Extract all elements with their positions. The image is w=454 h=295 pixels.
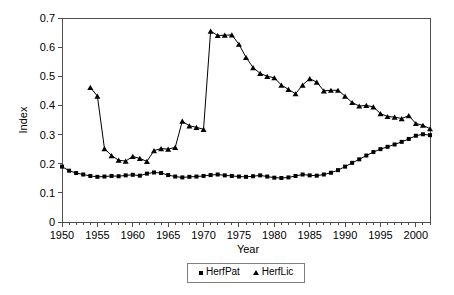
legend-entry-herfpat: HerfPat <box>199 266 240 278</box>
data-point-marker <box>144 159 150 164</box>
x-tick-label: 1985 <box>297 229 321 241</box>
data-point-marker <box>137 156 143 161</box>
x-axis-ticks: 1950195519601965197019751980198519901995… <box>50 222 430 241</box>
chart-legend: HerfPat HerfLic <box>187 263 305 283</box>
data-point-marker <box>216 173 220 177</box>
data-point-marker <box>350 161 354 165</box>
data-point-marker <box>272 176 276 180</box>
triangle-marker-icon <box>253 270 259 275</box>
chart-canvas: 00.10.20.30.40.50.60.7 19501955196019651… <box>0 0 454 295</box>
data-point-marker <box>102 175 106 179</box>
square-marker-icon <box>199 271 203 275</box>
data-point-marker <box>286 175 290 179</box>
data-point-marker <box>60 165 64 169</box>
data-point-marker <box>194 175 198 179</box>
y-tick-label: 0.5 <box>40 70 55 82</box>
data-point-marker <box>202 174 206 178</box>
data-point-marker <box>336 168 340 172</box>
data-point-marker <box>209 173 213 177</box>
data-point-marker <box>427 126 433 131</box>
data-point-marker <box>131 173 135 177</box>
data-point-marker <box>250 65 256 70</box>
data-point-marker <box>314 80 320 85</box>
y-tick-label: 0.2 <box>40 158 55 170</box>
data-point-marker <box>364 154 368 158</box>
x-tick-label: 1955 <box>85 229 109 241</box>
x-axis-title: Year <box>237 243 260 255</box>
data-point-marker <box>308 173 312 177</box>
data-point-marker <box>301 173 305 177</box>
x-tick-label: 1970 <box>191 229 215 241</box>
y-tick-label: 0.7 <box>40 12 55 24</box>
data-point-marker <box>95 175 99 179</box>
data-point-marker <box>343 165 347 169</box>
x-tick-label: 1965 <box>156 229 180 241</box>
chart-figure: 00.10.20.30.40.50.60.7 19501955196019651… <box>0 0 454 295</box>
y-tick-label: 0.6 <box>40 41 55 53</box>
data-point-marker <box>315 174 319 178</box>
plot-frame <box>62 18 430 222</box>
data-point-marker <box>187 175 191 179</box>
x-tick-label: 1995 <box>368 229 392 241</box>
series-herfpat <box>60 132 432 180</box>
data-point-marker <box>400 140 404 144</box>
data-point-marker <box>230 174 234 178</box>
data-point-marker <box>329 171 333 175</box>
x-tick-label: 1960 <box>121 229 145 241</box>
y-tick-label: 0.4 <box>40 99 55 111</box>
data-point-marker <box>421 132 425 136</box>
x-tick-label: 1975 <box>227 229 251 241</box>
data-point-marker <box>378 147 382 151</box>
data-point-marker <box>145 172 149 176</box>
legend-label-herflic: HerfLic <box>262 267 294 278</box>
data-point-marker <box>223 173 227 177</box>
data-point-marker <box>159 171 163 175</box>
x-tick-label: 1980 <box>262 229 286 241</box>
legend-label-herfpat: HerfPat <box>206 267 240 278</box>
y-tick-label: 0.3 <box>40 129 55 141</box>
data-point-marker <box>166 173 170 177</box>
data-point-marker <box>265 175 269 179</box>
y-axis-ticks: 00.10.20.30.40.50.60.7 <box>40 12 62 228</box>
data-point-marker <box>428 133 432 137</box>
data-point-marker <box>406 113 412 118</box>
data-point-marker <box>179 119 185 124</box>
data-point-marker <box>172 145 178 150</box>
data-point-marker <box>173 175 177 179</box>
data-point-marker <box>251 174 255 178</box>
data-point-marker <box>81 173 85 177</box>
x-tick-label: 1950 <box>50 229 74 241</box>
data-point-marker <box>244 175 248 179</box>
data-point-marker <box>236 42 242 47</box>
data-point-marker <box>243 55 249 60</box>
data-point-marker <box>117 174 121 178</box>
data-point-marker <box>357 157 361 161</box>
data-point-marker <box>386 145 390 149</box>
data-point-marker <box>180 175 184 179</box>
series-line <box>62 134 430 178</box>
data-point-marker <box>322 173 326 177</box>
data-point-marker <box>420 123 426 128</box>
y-tick-label: 0.1 <box>40 187 55 199</box>
series-layer <box>60 29 433 180</box>
data-point-marker <box>407 137 411 141</box>
data-point-marker <box>74 171 78 175</box>
data-point-marker <box>201 127 207 132</box>
y-tick-label: 0 <box>49 216 55 228</box>
data-point-marker <box>88 174 92 178</box>
data-point-marker <box>151 148 157 153</box>
data-point-marker <box>294 174 298 178</box>
data-point-marker <box>208 29 214 34</box>
data-point-marker <box>124 173 128 177</box>
data-point-marker <box>67 169 71 173</box>
data-point-marker <box>138 174 142 178</box>
data-point-marker <box>152 170 156 174</box>
data-point-marker <box>307 76 313 81</box>
y-axis-title: Index <box>17 106 29 133</box>
data-point-marker <box>371 150 375 154</box>
series-line <box>90 31 430 161</box>
data-point-marker <box>87 85 93 90</box>
data-point-marker <box>110 174 114 178</box>
data-point-marker <box>130 154 136 159</box>
data-point-marker <box>101 146 107 151</box>
